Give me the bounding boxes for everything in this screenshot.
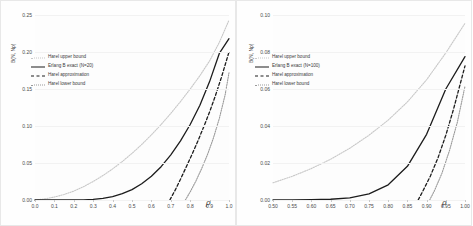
x-axis-tick-label: 0.90 [422, 204, 432, 209]
legend-label-exact: Erlang B exact (N=100) [272, 64, 320, 69]
x-axis-tick-label: 0.5 [129, 204, 136, 209]
plot-area-right: 0.000.020.040.060.080.100.500.550.600.65… [273, 15, 465, 201]
y-gridline [273, 89, 465, 90]
panel-left-frame: B(N, Nρ) 0.000.050.100.150.200.250.00.10… [0, 0, 236, 226]
legend-label-approximation: Harel approximation [48, 73, 89, 78]
x-axis-tick-label: 0.80 [383, 204, 393, 209]
y-gridline [35, 89, 229, 90]
plot-area-left: 0.000.050.100.150.200.250.00.10.20.30.40… [35, 15, 229, 201]
x-axis-label-right: ρ [442, 198, 447, 207]
y-axis-tick-label: 0.05 [22, 161, 32, 166]
series-line-harel-upper-bound [273, 23, 465, 182]
x-axis-tick-label: 0.50 [268, 204, 278, 209]
y-axis-tick-label: 0.02 [260, 161, 270, 166]
y-axis-tick-label: 0.00 [22, 198, 32, 203]
x-axis-tick-label: 0.70 [345, 204, 355, 209]
legend-line-dashed-icon [31, 73, 45, 79]
legend-label-exact: Erlang B exact (N=20) [48, 64, 93, 69]
x-axis-tick-label: 0.75 [364, 204, 374, 209]
legend-label-lower-bound: Harel lower bound [272, 82, 309, 87]
x-axis-tick-mark [273, 200, 274, 202]
legend-line-dotted-icon [31, 55, 45, 61]
x-axis-tick-mark [369, 200, 370, 202]
x-axis-tick-label: 1.00 [460, 204, 470, 209]
y-gridline [35, 126, 229, 127]
legend-line-solid-icon [31, 64, 45, 70]
legend-line-dotted-gray-icon [255, 82, 269, 88]
y-axis-tick-label: 0.00 [260, 198, 270, 203]
legend-line-dotted-gray-icon [31, 82, 45, 88]
legend-right: Harel upper bound Erlang B exact (N=100)… [255, 53, 320, 89]
curve-layer-left [35, 15, 229, 200]
y-axis-tick-label: 0.10 [260, 13, 270, 18]
x-axis-tick-label: 0.8 [187, 204, 194, 209]
legend-item-upper-bound: Harel upper bound [255, 53, 320, 62]
legend-line-dashed-icon [255, 73, 269, 79]
legend-left: Harel upper bound Erlang B exact (N=20) … [31, 53, 93, 89]
x-axis-tick-mark [190, 200, 191, 202]
y-gridline [35, 15, 229, 16]
x-axis-tick-label: 0.3 [90, 204, 97, 209]
legend-label-lower-bound: Harel lower bound [48, 82, 85, 87]
x-axis-tick-label: 0.60 [307, 204, 317, 209]
x-axis-tick-mark [331, 200, 332, 202]
legend-item-lower-bound: Harel lower bound [31, 80, 93, 89]
legend-item-upper-bound: Harel upper bound [31, 53, 93, 62]
x-axis-tick-label: 0.6 [148, 204, 155, 209]
x-axis-tick-label: 0.1 [51, 204, 58, 209]
legend-line-solid-icon [255, 64, 269, 70]
x-axis-label-left: ρ [206, 198, 211, 207]
legend-label-upper-bound: Harel upper bound [272, 55, 310, 60]
legend-line-dotted-icon [255, 55, 269, 61]
y-gridline [35, 163, 229, 164]
x-axis-tick-mark [113, 200, 114, 202]
chart-panel-right: B(N, Nρ) 0.000.020.040.060.080.100.500.5… [236, 0, 472, 226]
legend-item-lower-bound: Harel lower bound [255, 80, 320, 89]
legend-item-exact: Erlang B exact (N=100) [255, 62, 320, 71]
x-axis-tick-mark [229, 200, 230, 202]
legend-item-approximation: Harel approximation [255, 71, 320, 80]
x-axis-tick-label: 0.85 [403, 204, 413, 209]
x-axis-tick-mark [427, 200, 428, 202]
curve-layer-right [273, 15, 465, 200]
y-axis-tick-label: 0.10 [22, 124, 32, 129]
legend-label-upper-bound: Harel upper bound [48, 55, 86, 60]
x-axis-tick-mark [151, 200, 152, 202]
x-axis-tick-mark [407, 200, 408, 202]
x-axis-tick-mark [292, 200, 293, 202]
x-axis-tick-label: 0.4 [109, 204, 116, 209]
legend-label-approximation: Harel approximation [272, 73, 313, 78]
series-line-harel-upper-bound [35, 20, 229, 200]
x-axis-tick-label: 0.7 [167, 204, 174, 209]
x-axis-tick-mark [132, 200, 133, 202]
panel-right-frame: B(N, Nρ) 0.000.020.040.060.080.100.500.5… [236, 0, 472, 226]
x-axis-tick-label: 0.0 [32, 204, 39, 209]
x-axis-tick-mark [311, 200, 312, 202]
x-axis-tick-mark [74, 200, 75, 202]
x-axis-tick-mark [35, 200, 36, 202]
chart-panel-left: B(N, Nρ) 0.000.050.100.150.200.250.00.10… [0, 0, 236, 226]
x-axis-tick-label: 1.0 [226, 204, 233, 209]
y-gridline [273, 15, 465, 16]
legend-item-approximation: Harel approximation [31, 71, 93, 80]
x-axis-tick-mark [171, 200, 172, 202]
y-gridline [273, 126, 465, 127]
series-line-harel-approximation [418, 66, 465, 200]
y-axis-label-left: B(N, Nρ) [10, 43, 16, 63]
x-axis-tick-mark [388, 200, 389, 202]
x-axis-tick-label: 0.65 [326, 204, 336, 209]
y-axis-tick-label: 0.04 [260, 124, 270, 129]
y-gridline [273, 163, 465, 164]
series-line-harel-lower-bound [185, 73, 229, 200]
legend-item-exact: Erlang B exact (N=20) [31, 62, 93, 71]
x-axis-tick-label: 0.2 [70, 204, 77, 209]
x-axis-tick-mark [93, 200, 94, 202]
figure-two-panel-erlang-b: B(N, Nρ) 0.000.050.100.150.200.250.00.10… [0, 0, 473, 226]
series-line-harel-lower-bound [430, 86, 465, 200]
x-axis-tick-mark [350, 200, 351, 202]
y-axis-label-right: B(N, Nρ) [248, 43, 254, 63]
x-axis-tick-mark [54, 200, 55, 202]
x-axis-tick-mark [465, 200, 466, 202]
x-axis-tick-label: 0.55 [287, 204, 297, 209]
y-axis-tick-label: 0.25 [22, 13, 32, 18]
